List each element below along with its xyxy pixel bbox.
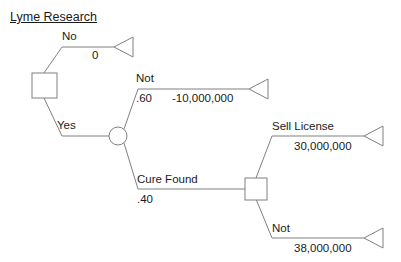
decision-node-commercialize[interactable] <box>245 178 267 200</box>
branch-line-no <box>44 47 114 73</box>
terminal-node-no[interactable] <box>114 37 133 57</box>
branch-label-not-cure: Not <box>136 73 154 85</box>
probability-not-cure: .60 <box>136 93 152 105</box>
terminal-node-not-sell[interactable] <box>364 228 383 248</box>
payoff-not-sell: 38,000,000 <box>294 243 352 255</box>
branch-label-yes: Yes <box>57 120 76 132</box>
terminal-node-sell-license[interactable] <box>364 126 383 146</box>
payoff-sell-license: 30,000,000 <box>294 141 352 153</box>
decision-node-research[interactable] <box>32 73 57 98</box>
decision-tree-diagram: Lyme Research No 0 Yes Not .60 -10,000,0… <box>0 0 401 262</box>
branch-label-no: No <box>62 31 77 43</box>
terminal-node-not-cure[interactable] <box>249 79 268 99</box>
branch-line-yes <box>44 98 109 136</box>
branch-label-not-sell: Not <box>272 223 290 235</box>
branch-label-sell-license: Sell License <box>272 121 334 133</box>
probability-cure-found: .40 <box>137 194 153 206</box>
chance-node-outcome[interactable] <box>109 127 127 145</box>
payoff-not-cure: -10,000,000 <box>172 93 233 105</box>
page-title: Lyme Research <box>10 11 97 24</box>
payoff-no: 0 <box>92 50 98 62</box>
branch-label-cure-found: Cure Found <box>137 174 198 186</box>
